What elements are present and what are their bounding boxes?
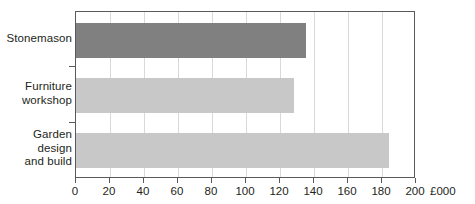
axis-tick bbox=[75, 178, 76, 183]
axis-tick bbox=[313, 178, 314, 183]
axis-tick-label: 200 bbox=[395, 185, 435, 198]
axis-tick bbox=[177, 178, 178, 183]
category-label-line: Stonemason bbox=[0, 32, 72, 46]
category-label-line: design bbox=[0, 142, 72, 156]
axis-tick bbox=[211, 178, 212, 183]
axis-tick bbox=[347, 178, 348, 183]
axis-unit-label: £000 bbox=[430, 185, 456, 198]
category-label-line: and build bbox=[0, 155, 72, 169]
category-label-line: Garden bbox=[0, 128, 72, 142]
category-axis-labels: Stonemason Furniture workshop Garden des… bbox=[0, 0, 72, 204]
bar bbox=[76, 23, 306, 58]
axis-tick bbox=[109, 178, 110, 183]
category-label-stonemason: Stonemason bbox=[0, 32, 72, 46]
axis-tick bbox=[381, 178, 382, 183]
category-label-line: workshop bbox=[0, 94, 72, 108]
axis-tick bbox=[415, 178, 416, 183]
plot-area bbox=[75, 11, 415, 178]
axis-tick bbox=[143, 178, 144, 183]
category-label-line: Furniture bbox=[0, 80, 72, 94]
category-label-furniture-workshop: Furniture workshop bbox=[0, 80, 72, 107]
category-label-garden-design-and-build: Garden design and build bbox=[0, 128, 72, 169]
bar-chart: Stonemason Furniture workshop Garden des… bbox=[0, 0, 475, 204]
bar bbox=[76, 78, 294, 113]
bar bbox=[76, 133, 389, 168]
axis-tick bbox=[279, 178, 280, 183]
axis-tick bbox=[245, 178, 246, 183]
